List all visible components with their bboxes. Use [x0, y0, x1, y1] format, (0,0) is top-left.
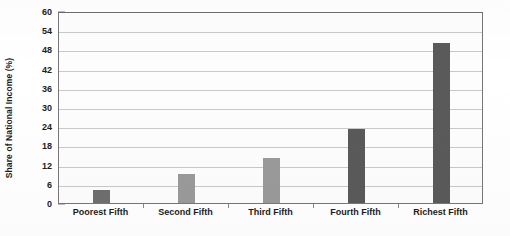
x-axis-label-third-fifth: Third Fifth [248, 207, 293, 217]
x-axis-label-second-fifth: Second Fifth [158, 207, 213, 217]
y-axis-tick-label: 18 [42, 141, 52, 151]
plot-inner [59, 13, 482, 203]
bar-fourth-fifth [348, 129, 365, 203]
y-axis-tick-label: 0 [47, 199, 52, 209]
y-axis-tick-label: 54 [42, 26, 52, 36]
bar-second-fifth [178, 174, 195, 203]
bar-poorest-fifth [93, 190, 110, 203]
x-axis-category-labels: Poorest FifthSecond FifthThird FifthFour… [58, 207, 483, 227]
y-axis-title: Share of National Income (%) [0, 0, 18, 236]
bar-third-fifth [263, 158, 280, 203]
gridline [59, 32, 482, 33]
y-axis-tick-label: 24 [42, 122, 52, 132]
x-axis-label-richest-fifth: Richest Fifth [413, 207, 468, 217]
gridline [59, 51, 482, 52]
y-axis-tick-label: 48 [42, 45, 52, 55]
y-axis-tick-label: 6 [47, 180, 52, 190]
y-axis-tick-label: 36 [42, 84, 52, 94]
y-axis-tick-labels: 06121824303642485460 [26, 0, 56, 236]
x-axis-label-fourth-fifth: Fourth Fifth [330, 207, 380, 217]
y-axis-tick-label: 30 [42, 103, 52, 113]
gridline [59, 90, 482, 91]
gridline [59, 128, 482, 129]
plot-area [58, 12, 483, 204]
gridline [59, 147, 482, 148]
x-axis-label-poorest-fifth: Poorest Fifth [73, 207, 129, 217]
y-axis-tick-label: 12 [42, 161, 52, 171]
chart-figure: Share of National Income (%) 06121824303… [0, 0, 510, 236]
gridline [59, 71, 482, 72]
gridline [59, 109, 482, 110]
y-axis-tick-label: 42 [42, 65, 52, 75]
bar-richest-fifth [433, 43, 450, 203]
y-axis-tick-label: 60 [42, 7, 52, 17]
